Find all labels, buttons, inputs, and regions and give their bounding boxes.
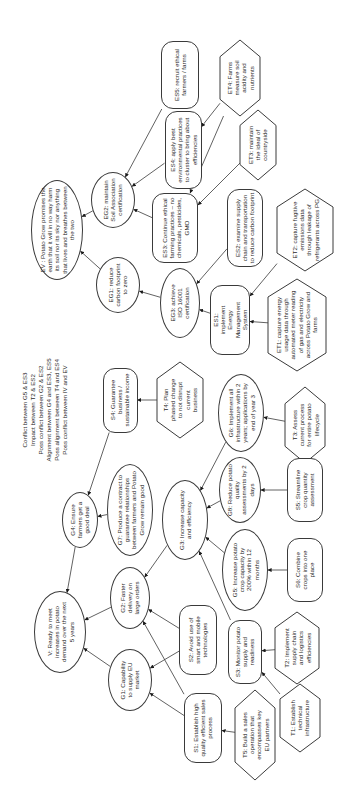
edge-g8-to-g3 [207,501,220,508]
note-line: Alignment between G4 and ES3, ES5 [45,358,53,461]
node-label: S6: Combine crops into one place [294,550,316,590]
node-t2-task: T2: Implement supply chain and logistics… [275,612,319,684]
edge-et1-to-es1 [250,321,268,322]
edge-es5-to-eg2 [125,109,161,177]
relationship-notes: Conflict between G5 & ES3 Impact between… [21,358,69,461]
edge-t2-to-s3 [262,650,275,651]
note-line: Poss alignment between T4 and ES4 [53,358,61,461]
node-label: T1: Establish technical infrastructure [289,696,311,740]
edge-s2-to-g2 [149,609,179,628]
node-es4-strategy: ES4: apply best environmental practices … [165,111,202,189]
edge-g5-to-g3 [206,537,224,552]
edge-eg1-to-ev [81,251,101,269]
node-ev-goal: EV : Potato Grow promises the earth that… [31,180,83,280]
node-label: ET2: capture fugitive emissions data thr… [291,199,320,261]
note-line: Impact between T2 & ES2 [29,358,37,461]
node-label: G5: Increase potato crop capacity by 200… [231,540,260,600]
node-label: S2: Avoid use of smart and mobile techno… [187,612,209,668]
edge-g7-to-g4 [98,515,107,517]
node-et4-task: ET4: Farms measure soil acidity and nutr… [220,40,260,116]
node-g1-goal: G1: Capability to supply EU market [108,649,152,711]
edge-es2-to-eg3 [197,249,227,284]
edge-g2-to-v [85,607,111,620]
node-g3-goal: G3: Increase capacity and efficiency [162,480,208,560]
edge-es3-to-eg2 [134,209,152,217]
node-t4-task: T4: Plan phased change to not disrupt cu… [157,362,203,438]
node-t3-task: T3: Assess current process for entire po… [285,387,325,463]
edge-s4-to-g4 [88,433,109,496]
note-line: Poss conflict between IV and EV [61,358,69,461]
edge-eg3-to-eg1 [139,291,160,297]
node-label: T3: Assess current process for entire po… [291,400,320,450]
note-line: Conflict between G5 & ES3 [21,358,29,461]
node-eg3-goal: EG3: achieve ISO 16001 certification [160,268,200,338]
edge-g4-to-v [67,547,75,593]
node-g4-goal: G4: Ensure farmers get a good deal [62,492,98,548]
node-label: G1: Capability to supply EU market [119,658,141,702]
node-label: EV : Potato Grow promises the earth that… [39,184,75,276]
note-line: Poss conflict between G2 & ES2 [37,358,45,461]
node-label: ES5: recruit ethical farmers / farms [173,45,187,105]
node-label: S5: Streamline crop quantity assessment [294,467,316,513]
edge-t3-to-g6 [264,417,285,421]
node-label: G3: Increase capacity and efficiency [178,490,192,550]
node-label: T2: Implement supply chain and logistics… [283,625,312,671]
node-label: G8: Reduce potato quality assessments by… [226,464,255,516]
node-es1-strategy: ES1: implement Energy Management System [210,285,250,355]
node-s1-strategy: S1: Establish high quality efficient sal… [184,693,222,763]
node-label: ET3: maintain the ideal of countryside [247,123,269,167]
node-s3-strategy: S3: Monitor potato supply and readiness [228,620,262,684]
node-s2-strategy: S2: Avoid use of smart and mobile techno… [179,605,217,675]
node-label: ES2: examine supply chain and transporta… [234,192,256,264]
node-label: T4: Plan phased change to not disrupt cu… [162,378,198,422]
node-et2-task: ET2: capture fugitive emissions data thr… [277,189,333,271]
node-s6-strategy: S6: Combine crops into one place [287,538,323,602]
node-t1-task: T1: Establish technical infrastructure [280,684,320,752]
node-label: S1: Establish high quality efficient sal… [192,699,214,757]
node-s4-strategy: S4: Guarantee business / sustainable inc… [103,368,138,433]
edge-es1-to-eg3 [200,310,210,314]
node-label: ET1: capture energy usage data through a… [275,289,318,361]
edge-es4-to-eg2 [132,163,164,186]
node-g8-goal: G8: Reduce potato quality assessments by… [219,457,261,523]
edge-t5-to-s1 [222,731,235,733]
node-label: G6: Implement all infrastructure within … [227,380,256,446]
edge-eg2-to-ev [82,211,93,217]
node-label: ES4: apply best environmental practices … [169,115,198,185]
node-label: G7: Produce a contract to guarantee rela… [116,469,145,551]
node-label: ES1: implement Energy Management System [212,300,248,340]
node-label: G4: Ensure farmers get a good deal [69,501,91,539]
node-eg2-goal: EG2: maintain Soil Association certifica… [91,172,135,228]
node-g5-goal: G5: Increase potato crop capacity by 200… [222,529,268,611]
node-g2-goal: G2: Faster delivery on large orders [110,567,150,629]
node-label: V: Ready to meet increases in potato dem… [46,602,75,662]
node-et1-task: ET1: capture energy usage data through a… [268,279,326,371]
node-g7-goal: G7: Produce a contract to guarantee rela… [107,464,153,556]
node-t5-task: T5: Build a sales operation that encompa… [235,690,275,780]
node-v-goal: V: Ready to meet increases in potato dem… [34,591,86,673]
node-s5-strategy: S5: Streamline crop quantity assessment [287,458,323,522]
node-g6-goal: G6: Implement all infrastructure within … [218,374,264,452]
node-label: ET4: Farms measure soil acidity and nutr… [226,53,255,103]
edge-g1-to-v [84,648,110,666]
edge-g3-to-g2 [145,545,167,577]
edge-et4-to-es4 [202,103,221,126]
node-et3-task: ET3: maintain the ideal of countryside [240,110,276,180]
node-label: EG1: reduce carbon footprint to zero [107,261,129,309]
node-label: S3: Monitor potato supply and readiness [234,626,256,678]
node-es2-strategy: ES2: examine supply chain and transporta… [227,189,263,267]
node-label: G2: Faster delivery on large orders [119,577,141,619]
node-label: ES3: Continue ethical farming practices … [161,197,190,259]
node-label: EG2: maintain Soil Association certifica… [102,176,124,224]
node-label: T5: Build a sales operation that encompa… [241,707,270,763]
edge-s1-to-g1 [150,693,184,715]
node-es3-strategy: ES3: Continue ethical farming practices … [152,193,198,263]
node-label: S4: Guarantee business / sustainable inc… [109,371,131,429]
node-eg1-goal: EG1: reduce carbon footprint to zero [96,257,140,313]
node-label: EG3: achieve ISO 16001 certification [169,283,191,323]
node-es5-strategy: ES5: recruit ethical farmers / farms [161,41,199,109]
